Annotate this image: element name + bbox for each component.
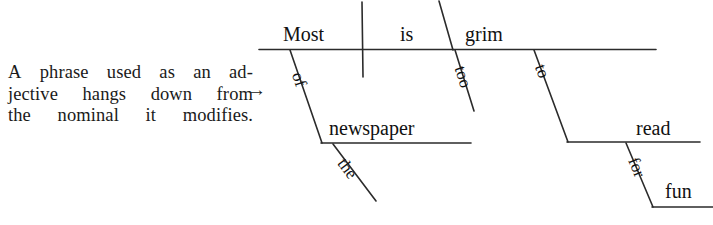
word-fun: fun bbox=[665, 181, 692, 201]
infinitive-to-slant bbox=[534, 50, 568, 142]
preposition-of-slant bbox=[290, 50, 322, 143]
word-most: Most bbox=[283, 24, 324, 44]
subject-verb-divider bbox=[362, 2, 363, 77]
word-read: read bbox=[636, 118, 670, 138]
word-grim: grim bbox=[465, 24, 503, 44]
figure-canvas: A phrase used as an ad- jective hangs do… bbox=[0, 0, 713, 225]
word-newspaper: newspaper bbox=[329, 118, 415, 138]
word-is: is bbox=[400, 24, 413, 44]
diagram-line-art bbox=[0, 0, 713, 225]
predicate-adjective-slant bbox=[439, 1, 453, 50]
